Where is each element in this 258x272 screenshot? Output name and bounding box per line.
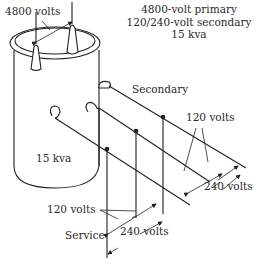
title-line-1: 4800-volt primary	[121, 4, 257, 15]
title-block: 4800-volt primary 120/240-volt secondary…	[121, 4, 257, 40]
title-line-2: 120/240-volt secondary	[121, 17, 257, 28]
secondary-bushings	[50, 81, 110, 118]
lower-240-volts-label: 240 volts	[120, 226, 169, 237]
primary-voltage-label: 4800 volts	[5, 6, 60, 17]
upper-240-volts-label: 240 volts	[204, 181, 253, 192]
title-line-3: 15 kva	[121, 29, 257, 40]
secondary-label: Secondary	[132, 84, 188, 95]
transformer-diagram: 4800 volts 4800-volt primary 120/240-vol…	[0, 0, 258, 272]
lower-120-volts-label: 120 volts	[47, 204, 96, 215]
service-label: Service	[65, 230, 105, 241]
transformer-rating-label: 15 kva	[36, 153, 71, 164]
upper-120-volts-label: 120 volts	[186, 112, 235, 123]
